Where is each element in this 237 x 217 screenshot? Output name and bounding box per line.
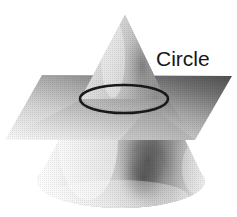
conic-section-illustration [0, 0, 237, 217]
conic-section-figure: Circle [0, 0, 237, 217]
circle-label: Circle [156, 48, 210, 69]
